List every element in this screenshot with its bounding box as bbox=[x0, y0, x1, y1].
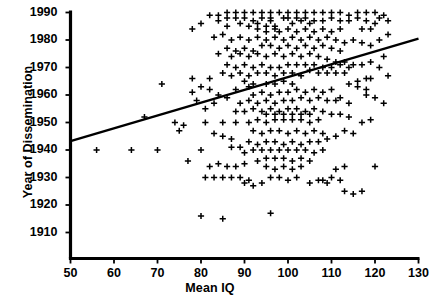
data-point-marker bbox=[307, 180, 313, 186]
data-point-marker bbox=[237, 70, 243, 76]
data-point-marker bbox=[307, 34, 313, 40]
data-point-marker bbox=[315, 37, 321, 43]
data-point-marker bbox=[224, 9, 230, 15]
data-point-marker bbox=[159, 81, 165, 87]
data-point-marker bbox=[302, 62, 308, 68]
data-point-marker bbox=[263, 53, 269, 59]
data-point-marker bbox=[94, 147, 100, 153]
data-point-marker bbox=[328, 45, 334, 51]
data-point-marker bbox=[320, 147, 326, 153]
data-point-marker bbox=[294, 45, 300, 51]
data-point-marker bbox=[337, 18, 343, 24]
data-point-marker bbox=[228, 174, 234, 180]
data-point-marker bbox=[350, 191, 356, 197]
data-point-marker bbox=[307, 51, 313, 57]
y-tick-label: 1950 bbox=[12, 115, 58, 129]
data-point-marker bbox=[315, 53, 321, 59]
data-point-marker bbox=[246, 37, 252, 43]
data-point-marker bbox=[268, 42, 274, 48]
data-point-marker bbox=[289, 111, 295, 117]
data-point-marker bbox=[355, 84, 361, 90]
data-point-marker bbox=[302, 9, 308, 15]
data-point-marker bbox=[181, 122, 187, 128]
data-point-marker bbox=[259, 42, 265, 48]
data-point-marker bbox=[324, 34, 330, 40]
data-point-marker bbox=[189, 89, 195, 95]
data-point-marker bbox=[333, 166, 339, 172]
data-point-marker bbox=[324, 70, 330, 76]
data-point-marker bbox=[246, 73, 252, 79]
data-point-marker bbox=[263, 23, 269, 29]
data-point-marker bbox=[341, 163, 347, 169]
data-point-marker bbox=[307, 139, 313, 145]
data-point-marker bbox=[298, 117, 304, 123]
data-point-marker bbox=[298, 155, 304, 161]
data-point-marker bbox=[298, 163, 304, 169]
data-point-marker bbox=[241, 150, 247, 156]
data-point-marker bbox=[320, 108, 326, 114]
data-point-marker bbox=[272, 34, 278, 40]
x-tick-label: 50 bbox=[51, 266, 91, 280]
data-point-marker bbox=[202, 106, 208, 112]
data-point-marker bbox=[285, 106, 291, 112]
data-point-marker bbox=[228, 136, 234, 142]
data-point-marker bbox=[359, 62, 365, 68]
data-point-marker bbox=[368, 42, 374, 48]
y-tick-label: 1980 bbox=[12, 32, 58, 46]
data-point-marker bbox=[341, 40, 347, 46]
data-point-marker bbox=[294, 174, 300, 180]
data-point-marker bbox=[324, 56, 330, 62]
data-point-marker bbox=[241, 62, 247, 68]
data-point-marker bbox=[237, 174, 243, 180]
data-point-marker bbox=[207, 12, 213, 18]
data-point-marker bbox=[272, 100, 278, 106]
data-point-marker bbox=[281, 70, 287, 76]
data-point-marker bbox=[268, 92, 274, 98]
data-point-marker bbox=[320, 9, 326, 15]
data-point-marker bbox=[246, 97, 252, 103]
data-point-marker bbox=[307, 158, 313, 164]
data-point-marker bbox=[359, 119, 365, 125]
data-point-marker bbox=[268, 174, 274, 180]
data-point-marker bbox=[294, 147, 300, 153]
data-point-marker bbox=[233, 108, 239, 114]
y-tick-label: 1920 bbox=[12, 197, 58, 211]
data-point-marker bbox=[372, 163, 378, 169]
data-point-marker bbox=[341, 188, 347, 194]
data-point-marker bbox=[259, 62, 265, 68]
data-point-marker bbox=[311, 45, 317, 51]
data-point-marker bbox=[363, 75, 369, 81]
data-point-marker bbox=[337, 177, 343, 183]
data-point-marker bbox=[328, 111, 334, 117]
data-point-marker bbox=[281, 117, 287, 123]
data-point-marker bbox=[302, 89, 308, 95]
data-point-marker bbox=[285, 89, 291, 95]
data-point-marker bbox=[281, 37, 287, 43]
data-point-marker bbox=[285, 130, 291, 136]
data-point-marker bbox=[215, 12, 221, 18]
data-point-marker bbox=[341, 70, 347, 76]
data-point-marker bbox=[198, 20, 204, 26]
data-point-marker bbox=[276, 9, 282, 15]
data-point-markers bbox=[94, 9, 392, 221]
data-point-marker bbox=[311, 106, 317, 112]
data-point-marker bbox=[281, 141, 287, 147]
data-point-marker bbox=[294, 128, 300, 134]
data-point-marker bbox=[228, 73, 234, 79]
data-point-marker bbox=[220, 216, 226, 222]
data-point-marker bbox=[363, 18, 369, 24]
data-point-marker bbox=[333, 133, 339, 139]
data-point-marker bbox=[289, 97, 295, 103]
data-point-marker bbox=[376, 64, 382, 70]
data-point-marker bbox=[311, 150, 317, 156]
data-point-marker bbox=[363, 9, 369, 15]
data-point-marker bbox=[237, 20, 243, 26]
data-point-marker bbox=[207, 86, 213, 92]
data-point-marker bbox=[311, 62, 317, 68]
data-point-marker bbox=[263, 29, 269, 35]
data-point-marker bbox=[211, 100, 217, 106]
data-point-marker bbox=[328, 9, 334, 15]
data-point-marker bbox=[263, 139, 269, 145]
data-point-marker bbox=[285, 42, 291, 48]
data-point-marker bbox=[298, 37, 304, 43]
